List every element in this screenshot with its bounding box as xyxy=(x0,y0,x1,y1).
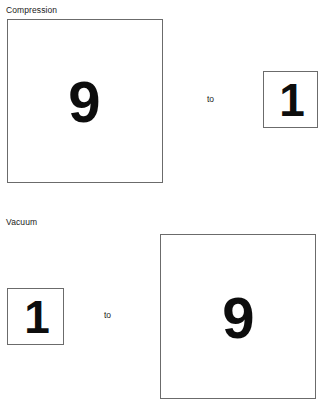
vacuum-from-box: 1 xyxy=(7,288,64,345)
compression-connector-label: to xyxy=(207,94,214,104)
compression-to-digit: 1 xyxy=(279,77,304,123)
vacuum-connector-label: to xyxy=(104,310,111,320)
ratio-diagram-canvas: Compression 9 to 1 Vacuum 1 to 9 xyxy=(0,0,329,404)
compression-from-box: 9 xyxy=(7,19,163,183)
vacuum-to-box: 9 xyxy=(160,234,316,399)
vacuum-from-digit: 1 xyxy=(24,294,49,340)
vacuum-to-digit: 9 xyxy=(222,289,253,347)
section-label-compression: Compression xyxy=(6,5,57,15)
section-label-vacuum: Vacuum xyxy=(6,217,37,227)
compression-from-digit: 9 xyxy=(68,73,99,131)
compression-to-box: 1 xyxy=(263,71,318,128)
